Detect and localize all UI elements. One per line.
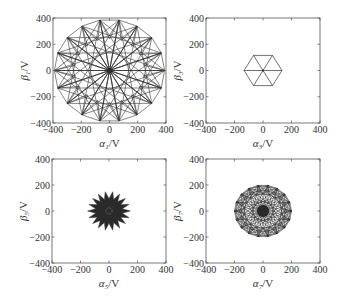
x-axis-label: α5/V [99,277,119,291]
x-tick-label: 400 [159,124,174,135]
y-tick-label: 200 [35,180,50,191]
y-tick-label: 400 [35,154,50,165]
y-tick-label: 200 [36,39,51,50]
center-dot [262,70,264,72]
x-tick-label: 200 [284,124,299,135]
y-tick-label: −200 [183,232,204,243]
x-tick-label: 400 [313,124,328,135]
figure: −400−2000200400−400−2000200400α1/Vβ1/V −… [0,0,342,304]
y-tick-label: −400 [29,258,50,269]
x-tick-label: 0 [107,124,112,135]
star-trajectory [88,192,131,230]
y-tick-label: −200 [30,91,51,102]
y-tick-label: 400 [36,13,51,24]
y-tick-label: −200 [29,232,50,243]
x-tick-label: 200 [284,264,299,275]
x-tick-label: 0 [107,264,112,275]
panel-bottom-right: −400−2000200400−400−2000200400α7/Vβ7/V [171,154,328,292]
y-tick-label: −400 [183,258,204,269]
y-tick-label: −400 [183,118,204,129]
y-tick-label: 400 [189,13,204,24]
y-tick-label: 400 [189,154,204,165]
center-blob [107,68,112,73]
plot-area [88,192,131,230]
x-tick-label: −200 [71,124,92,135]
x-tick-label: 0 [261,124,266,135]
x-tick-label: 200 [130,124,145,135]
x-tick-label: −200 [224,264,245,275]
panel-bottom-left: −400−2000200400−400−2000200400α5/Vβ5/V [17,154,174,292]
panel-top-right: −400−2000200400−400−2000200400α3/Vβ3/V [171,13,328,152]
plot-area [54,20,164,121]
panel-top-left: −400−2000200400−400−2000200400α1/Vβ1/V [18,13,174,152]
x-tick-label: 200 [130,264,145,275]
x-tick-label: −200 [70,264,91,275]
y-tick-label: −400 [30,118,51,129]
y-tick-label: 0 [199,206,204,217]
y-tick-label: −200 [183,91,204,102]
x-axis-label: α3/V [253,137,273,151]
x-tick-label: −200 [224,124,245,135]
center-blob [257,205,269,217]
y-tick-label: 200 [189,39,204,50]
x-axis-label: α1/V [99,137,119,151]
y-axis-label: β1/V [18,60,32,81]
y-tick-label: 0 [46,65,51,76]
y-axis-label: β3/V [171,60,185,81]
plot-area [235,185,292,236]
plot-area [244,55,282,85]
y-axis-label: β5/V [17,201,31,222]
y-axis-label: β7/V [171,201,185,222]
x-tick-label: 400 [313,264,328,275]
y-tick-label: 200 [189,180,204,191]
y-tick-label: 0 [45,206,50,217]
x-axis-label: α7/V [253,277,273,291]
x-tick-label: 0 [261,264,266,275]
x-tick-label: 400 [159,264,174,275]
y-tick-label: 0 [199,65,204,76]
